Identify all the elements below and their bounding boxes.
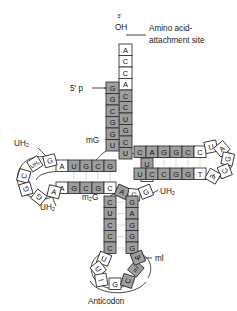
leader-uh2-top: [38, 148, 46, 156]
anticodon-loop: U U I G C mI Ψ: [90, 250, 151, 289]
nt: U: [144, 160, 149, 169]
backbone-5p-to-dstem: [96, 151, 106, 160]
anticodon-stem-left: C U C C C: [104, 196, 116, 254]
anticodon-stem-right: G A G G G: [126, 196, 138, 254]
nt: T: [198, 170, 203, 179]
nt: U: [137, 170, 142, 179]
tstem-top-strand: C A G G C C: [134, 146, 206, 158]
acceptor-5prime-strand: G G C G G U: [106, 82, 119, 151]
nt: C: [107, 232, 113, 241]
nt: G: [110, 130, 116, 139]
trna-diagram: A C C A C C U G C U G G C G G U: [0, 0, 237, 311]
acceptor-3prime-tail: A C C A: [119, 44, 132, 90]
label-mg: mG: [86, 136, 99, 145]
nt: A: [123, 46, 128, 55]
tstem-hbonds: [152, 158, 200, 168]
nt: C: [110, 107, 116, 116]
nt: A: [60, 162, 65, 171]
nt: C: [107, 244, 113, 253]
nt: G: [110, 84, 116, 93]
nt: U: [107, 209, 112, 218]
nt: G: [110, 118, 116, 127]
tloop: U A G C Ψ: [204, 140, 235, 184]
nt: G: [107, 162, 113, 171]
label-amino-acid-line2: attachment site: [149, 36, 205, 45]
dstem-hbonds: [74, 172, 110, 182]
nt: G: [161, 148, 167, 157]
nt: A: [150, 148, 155, 157]
nt: G: [110, 95, 116, 104]
acceptor-3prime-strand: C C U G C U: [119, 90, 132, 159]
nt: C: [197, 148, 203, 157]
nt: C: [161, 170, 167, 179]
label-3prime: 3': [117, 12, 122, 19]
label-amino-acid-line1: Amino acid-: [149, 24, 193, 33]
nt: G: [129, 198, 135, 207]
dloop: G UH₂ C G G A: [17, 154, 62, 206]
nt: G: [173, 170, 179, 179]
nt: C: [123, 69, 129, 78]
nt: U: [71, 162, 76, 171]
nt: G: [95, 184, 101, 193]
nt: G: [173, 148, 179, 157]
nt: C: [149, 170, 155, 179]
nt: G: [129, 221, 135, 230]
label-ml: ml: [155, 254, 164, 263]
nt: C: [185, 148, 191, 157]
label-uh2-dloop-bottom: UH₂: [40, 203, 55, 212]
nt: C: [137, 148, 143, 157]
nt: G: [112, 280, 118, 289]
nt: C: [107, 198, 113, 207]
nt: G: [129, 244, 135, 253]
nt: C: [95, 162, 101, 171]
label-anticodon: Anticodon: [88, 297, 125, 306]
nt: U: [110, 141, 115, 150]
dstem-top-strand: A U G C G: [56, 160, 116, 172]
nt: C: [123, 57, 129, 66]
label-uh2-variable: UH₂: [160, 187, 175, 196]
nt: C: [123, 103, 129, 112]
nt: C: [123, 138, 129, 147]
anticodon-stem-hbonds: [116, 202, 126, 248]
nt: C: [123, 92, 129, 101]
nt: U: [123, 115, 128, 124]
label-m2g: m₂G: [82, 193, 98, 202]
nt: U: [123, 149, 128, 158]
nt: G: [123, 126, 129, 135]
nt: C: [107, 184, 113, 193]
label-5prime-p: 5' p: [70, 84, 83, 93]
nt: A: [130, 209, 135, 218]
nt: A: [123, 80, 128, 89]
nt: G: [185, 170, 191, 179]
label-oh: OH: [115, 23, 127, 32]
nt: G: [83, 162, 89, 171]
label-uh2-dloop-top: UH₂: [14, 139, 29, 148]
dstem-bottom-strand: A G C G C: [56, 182, 116, 194]
nt: G: [129, 232, 135, 241]
tstem-bottom-strand: U C C G G T: [134, 168, 206, 180]
nt: C: [107, 221, 113, 230]
nt: C: [83, 184, 89, 193]
nt: G: [71, 184, 77, 193]
